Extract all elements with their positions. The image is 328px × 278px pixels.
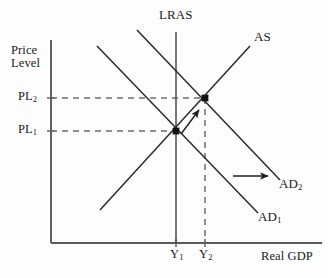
x-tick-label-y2-text: Y (199, 247, 208, 261)
diagram-canvas (0, 0, 328, 278)
y-axis-label: Price Level (11, 44, 40, 70)
curve-label-as-text: AS (254, 29, 271, 44)
curve-label-ad2: AD2 (279, 177, 302, 192)
curve-label-as: AS (254, 30, 271, 43)
x-axis-label: Real GDP (261, 250, 313, 263)
curve-label-lras: LRAS (159, 8, 193, 21)
y-tick-label-pl2-text: PL (18, 89, 33, 103)
curve-label-ad1: AD1 (258, 210, 281, 225)
economics-diagram: Price Level PL2 PL1 LRAS AS AD2 AD1 Y1 Y… (0, 0, 328, 278)
curve-label-ad1-sub: 1 (277, 215, 281, 225)
y-tick-label-pl2: PL2 (18, 90, 37, 104)
x-tick-label-y2-sub: 2 (208, 252, 212, 262)
x-tick-label-y1-sub: 1 (179, 252, 183, 262)
equilibrium-point-2 (202, 95, 209, 102)
y-tick-label-pl1: PL1 (18, 123, 37, 137)
equilibrium-shift-arrow (181, 110, 199, 134)
x-tick-label-y1-text: Y (170, 247, 179, 261)
y-tick-label-pl1-text: PL (18, 122, 33, 136)
ad2-curve (137, 30, 280, 180)
y-tick-label-pl1-sub: 1 (33, 127, 37, 137)
curve-label-ad2-text: AD (279, 176, 298, 191)
curve-label-ad1-text: AD (258, 209, 277, 224)
curve-label-lras-text: LRAS (159, 7, 193, 22)
x-tick-label-y1: Y1 (170, 248, 183, 262)
y-axis-label-line1: Price (11, 44, 40, 57)
y-tick-label-pl2-sub: 2 (33, 94, 37, 104)
equilibrium-point-1 (173, 128, 180, 135)
y-axis-label-line2: Level (11, 57, 40, 70)
x-axis-label-text: Real GDP (261, 249, 313, 263)
x-tick-label-y2: Y2 (199, 248, 212, 262)
curve-label-ad2-sub: 2 (298, 182, 302, 192)
